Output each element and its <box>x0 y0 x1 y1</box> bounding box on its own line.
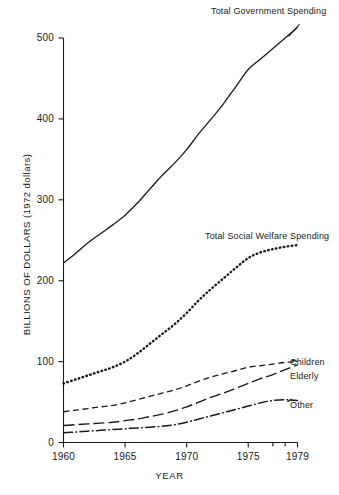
series-label-total-government-spending: Total Government Spending <box>211 6 326 16</box>
y-axis-tick-label: 400 <box>20 113 54 124</box>
y-axis-title: BILLIONS OF DOLLARS (1972 dollars) <box>21 145 32 345</box>
series-label-children: Children <box>290 357 325 367</box>
line-chart-figure: BILLIONS OF DOLLARS (1972 dollars) YEAR … <box>0 0 339 495</box>
series-line-total-government-spending <box>64 27 298 262</box>
x-axis-title: YEAR <box>0 470 339 481</box>
series-label-total-social-welfare-spending: Total Social Welfare Spending <box>205 231 329 241</box>
y-axis-ticks <box>59 38 64 443</box>
x-axis-tick-label: 1965 <box>105 451 145 462</box>
series-line-children <box>64 362 298 412</box>
x-axis-tick-label: 1979 <box>278 451 318 462</box>
y-axis-tick-label: 200 <box>20 275 54 286</box>
series-line-other <box>64 400 298 433</box>
series-label-elderly: Elderly <box>290 371 319 381</box>
x-axis-ticks <box>64 443 298 448</box>
y-axis-tick-label: 0 <box>20 437 54 448</box>
x-axis-tick-label: 1975 <box>228 451 268 462</box>
x-axis-tick-label: 1960 <box>44 451 84 462</box>
series-line-elderly <box>64 365 298 426</box>
series-label-other: Other <box>290 400 313 410</box>
annotation-leader-lines <box>288 24 300 401</box>
x-axis-tick-label: 1970 <box>167 451 207 462</box>
y-axis-tick-label: 500 <box>20 32 54 43</box>
y-axis-tick-label: 100 <box>20 356 54 367</box>
leader-total-government-spending <box>289 24 300 36</box>
series-line-total-social-welfare-spending <box>64 245 298 383</box>
y-axis-tick-label: 300 <box>20 194 54 205</box>
chart-plot-area <box>0 0 339 495</box>
